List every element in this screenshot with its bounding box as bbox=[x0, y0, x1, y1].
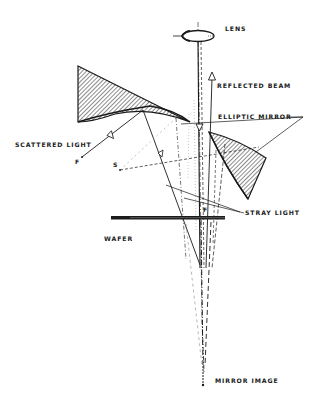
elliptic-mirror-left bbox=[78, 66, 190, 122]
mirror-image-rays bbox=[186, 220, 211, 386]
diagram-canvas bbox=[0, 0, 318, 407]
label-point-f-scatter: F bbox=[75, 159, 79, 165]
lens-icon bbox=[173, 31, 214, 42]
label-lens: LENS bbox=[225, 26, 246, 32]
label-point-f-wafer: F bbox=[203, 207, 207, 213]
mirror-to-focus-ray bbox=[143, 110, 200, 265]
label-elliptic-mirror: ELLIPTIC MIRROR bbox=[218, 114, 292, 120]
label-stray-light: STRAY LIGHT bbox=[245, 210, 300, 216]
elliptic-mirror-right bbox=[209, 132, 266, 199]
wafer bbox=[111, 216, 225, 220]
label-scattered-light: SCATTERED LIGHT bbox=[15, 142, 92, 148]
label-mirror-image: MIRROR IMAGE bbox=[215, 378, 279, 384]
label-point-s: S bbox=[113, 162, 117, 168]
label-wafer: WAFER bbox=[104, 236, 133, 242]
label-reflected-beam: REFLECTED BEAM bbox=[217, 83, 291, 89]
